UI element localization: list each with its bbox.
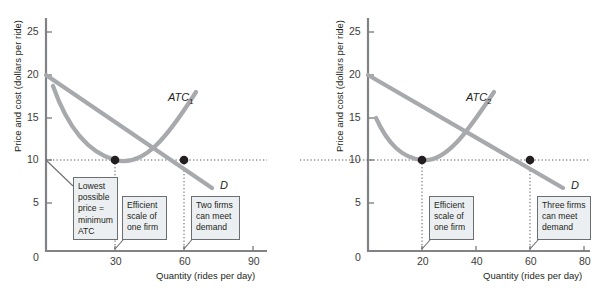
atc1-curve-label: ATC1	[168, 92, 193, 106]
y-tick-label-10: 10	[349, 154, 361, 165]
x-axis-title: Quantity (rides per day)	[483, 271, 582, 281]
demand-met-point	[526, 156, 535, 165]
y-tick-label-20: 20	[349, 69, 361, 80]
y-tick-label-25: 25	[349, 26, 361, 37]
y-tick-label-0: 0	[33, 252, 39, 263]
x-tick-label-60: 60	[525, 256, 537, 267]
efficient-scale-point	[418, 156, 427, 165]
atc2-label-text: ATC	[466, 91, 487, 103]
atc1-label-text: ATC	[168, 91, 189, 103]
demand-curve-label: D	[220, 180, 228, 191]
x-axis-title: Quantity (rides per day)	[156, 271, 255, 281]
x-tick-label-40: 40	[471, 256, 483, 267]
x-tick-label-80: 80	[579, 256, 591, 267]
y-tick-label-25: 25	[27, 26, 39, 37]
chart-left-canvas	[0, 0, 300, 288]
economics-figure: Price and cost (dollars per ride) 25 20 …	[0, 0, 601, 288]
y-tick-label-15: 15	[27, 112, 39, 123]
y-tick-label-5: 5	[33, 197, 39, 208]
chart-panel-left: Price and cost (dollars per ride) 25 20 …	[0, 0, 300, 288]
y-tick-label-5: 5	[355, 197, 361, 208]
two-firms-callout: Two firms can meet demand	[191, 196, 240, 240]
x-tick-label-90: 90	[248, 256, 260, 267]
lowest-price-callout: Lowest possible price = minimum ATC	[73, 177, 118, 240]
y-axis-title: Price and cost (dollars per ride)	[334, 20, 345, 152]
three-firms-callout: Three firms can meet demand	[537, 196, 591, 240]
atc2-label-subscript: 2	[487, 97, 491, 106]
x-tick-label-60: 60	[179, 256, 191, 267]
atc2-curve-label: ATC2	[466, 92, 491, 106]
y-tick-label-0: 0	[355, 252, 361, 263]
atc1-label-subscript: 1	[189, 97, 193, 106]
lowest-price-leader-line	[47, 161, 73, 186]
y-axis-title: Price and cost (dollars per ride)	[12, 20, 23, 152]
efficient-scale-callout: Efficient scale of one firm	[122, 196, 167, 240]
efficient-scale-point	[111, 156, 120, 165]
x-tick-label-30: 30	[110, 256, 122, 267]
efficient-scale-callout: Efficient scale of one firm	[429, 196, 474, 240]
y-tick-label-20: 20	[27, 69, 39, 80]
x-tick-label-20: 20	[417, 256, 429, 267]
demand-met-point	[180, 156, 189, 165]
chart-right-canvas	[300, 0, 601, 288]
y-tick-label-15: 15	[349, 112, 361, 123]
demand-curve-label: D	[571, 180, 579, 191]
y-tick-label-10: 10	[27, 154, 39, 165]
chart-panel-right: Price and cost (dollars per ride) 25 20 …	[300, 0, 601, 288]
